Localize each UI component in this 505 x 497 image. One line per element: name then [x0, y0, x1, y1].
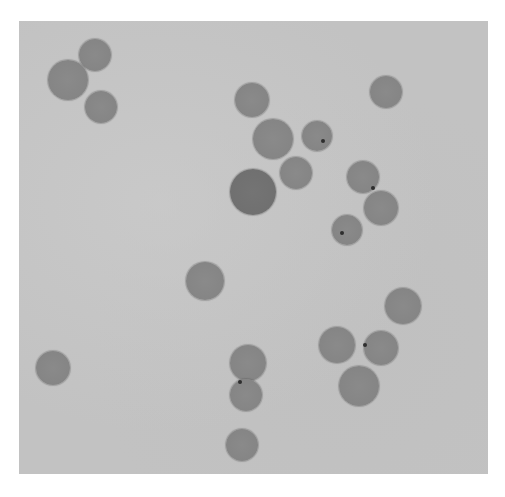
cell	[230, 345, 266, 381]
cell	[347, 161, 379, 193]
cell	[253, 119, 293, 159]
cell	[230, 379, 262, 411]
cell	[332, 215, 362, 245]
cell	[339, 366, 379, 406]
cell-inclusion-spot	[340, 231, 344, 235]
cell	[235, 83, 269, 117]
cell-inclusion-spot	[321, 139, 325, 143]
cell	[79, 39, 111, 71]
cell	[48, 60, 88, 100]
cell-inclusion-spot	[238, 380, 242, 384]
cell	[280, 157, 312, 189]
cell-inclusion-spot	[371, 186, 375, 190]
cell	[302, 121, 332, 151]
cell	[370, 76, 402, 108]
cell	[319, 327, 355, 363]
cell	[230, 169, 276, 215]
cell	[226, 429, 258, 461]
cell	[364, 191, 398, 225]
cell	[186, 262, 224, 300]
cell	[364, 331, 398, 365]
cell	[85, 91, 117, 123]
cell	[385, 288, 421, 324]
cell	[36, 351, 70, 385]
cell-inclusion-spot	[363, 343, 367, 347]
